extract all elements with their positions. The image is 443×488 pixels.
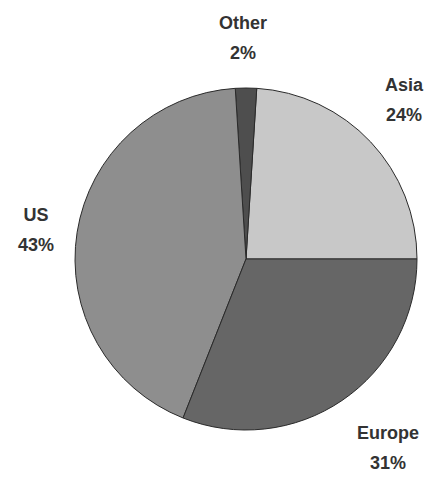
label-other-name: Other xyxy=(212,8,274,38)
label-us-name: US xyxy=(8,200,64,230)
label-asia-pct: 24% xyxy=(374,100,434,130)
label-other-pct: 2% xyxy=(212,38,274,68)
pie-slices xyxy=(75,88,417,430)
label-europe: Europe 31% xyxy=(346,418,430,478)
label-asia: Asia 24% xyxy=(374,70,434,130)
label-europe-name: Europe xyxy=(346,418,430,448)
label-us-pct: 43% xyxy=(8,230,64,260)
label-europe-pct: 31% xyxy=(346,448,430,478)
label-us: US 43% xyxy=(8,200,64,260)
label-other: Other 2% xyxy=(212,8,274,68)
label-asia-name: Asia xyxy=(374,70,434,100)
